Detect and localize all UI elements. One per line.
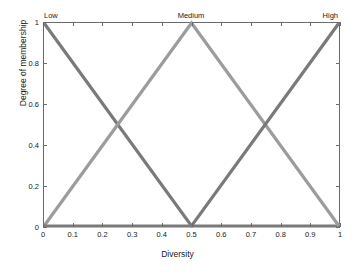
y-tick-mark <box>43 186 47 187</box>
x-tick-mark <box>310 223 311 227</box>
curve-low <box>44 23 339 226</box>
y-tick-mark-right <box>336 104 340 105</box>
y-tick-mark-right <box>336 22 340 23</box>
x-tick-label: 0.4 <box>157 230 167 239</box>
y-tick-mark-right <box>336 63 340 64</box>
x-tick-mark <box>221 223 222 227</box>
x-tick-mark <box>162 223 163 227</box>
x-tick-label: 0.5 <box>186 230 196 239</box>
y-tick-label: 0 <box>35 223 39 232</box>
x-tick-label: 1 <box>338 230 342 239</box>
curve-high <box>44 23 339 226</box>
x-tick-mark-top <box>192 22 193 26</box>
x-tick-mark-top <box>132 22 133 26</box>
x-tick-mark-top <box>340 22 341 26</box>
y-tick-mark-right <box>336 227 340 228</box>
x-tick-label: 0.1 <box>67 230 77 239</box>
plot-area <box>43 22 340 227</box>
series-label-high: High <box>323 11 338 20</box>
x-tick-mark <box>340 223 341 227</box>
x-tick-mark-top <box>221 22 222 26</box>
x-tick-label: 0.7 <box>246 230 256 239</box>
x-tick-mark <box>192 223 193 227</box>
curve-medium <box>44 23 339 226</box>
y-tick-label: 0.6 <box>29 100 39 109</box>
x-tick-mark-top <box>251 22 252 26</box>
membership-curves <box>44 23 339 226</box>
y-tick-mark-right <box>336 145 340 146</box>
x-tick-mark-top <box>162 22 163 26</box>
y-tick-label: 0.2 <box>29 182 39 191</box>
x-tick-mark <box>73 223 74 227</box>
x-tick-mark <box>281 223 282 227</box>
x-tick-label: 0.6 <box>216 230 226 239</box>
x-tick-mark-top <box>102 22 103 26</box>
fuzzy-membership-chart: Low Medium High 00.10.20.30.40.50.60.70.… <box>0 0 355 274</box>
y-tick-mark <box>43 22 47 23</box>
x-tick-label: 0.2 <box>97 230 107 239</box>
y-tick-label: 1 <box>35 18 39 27</box>
x-tick-label: 0.9 <box>305 230 315 239</box>
y-tick-label: 0.8 <box>29 59 39 68</box>
series-label-low: Low <box>44 11 58 20</box>
x-tick-mark <box>132 223 133 227</box>
series-label-medium: Medium <box>178 11 205 20</box>
x-tick-mark <box>251 223 252 227</box>
y-tick-label: 0.4 <box>29 141 39 150</box>
x-tick-label: 0 <box>41 230 45 239</box>
y-tick-mark <box>43 227 47 228</box>
y-tick-mark <box>43 104 47 105</box>
y-axis-title: Degree of membership <box>18 0 28 133</box>
x-tick-mark-top <box>310 22 311 26</box>
x-tick-mark-top <box>281 22 282 26</box>
x-tick-mark <box>102 223 103 227</box>
x-tick-label: 0.8 <box>275 230 285 239</box>
y-tick-mark <box>43 145 47 146</box>
x-tick-mark-top <box>73 22 74 26</box>
x-axis-title: Diversity <box>0 249 355 259</box>
y-tick-mark <box>43 63 47 64</box>
y-tick-mark-right <box>336 186 340 187</box>
x-tick-label: 0.3 <box>127 230 137 239</box>
